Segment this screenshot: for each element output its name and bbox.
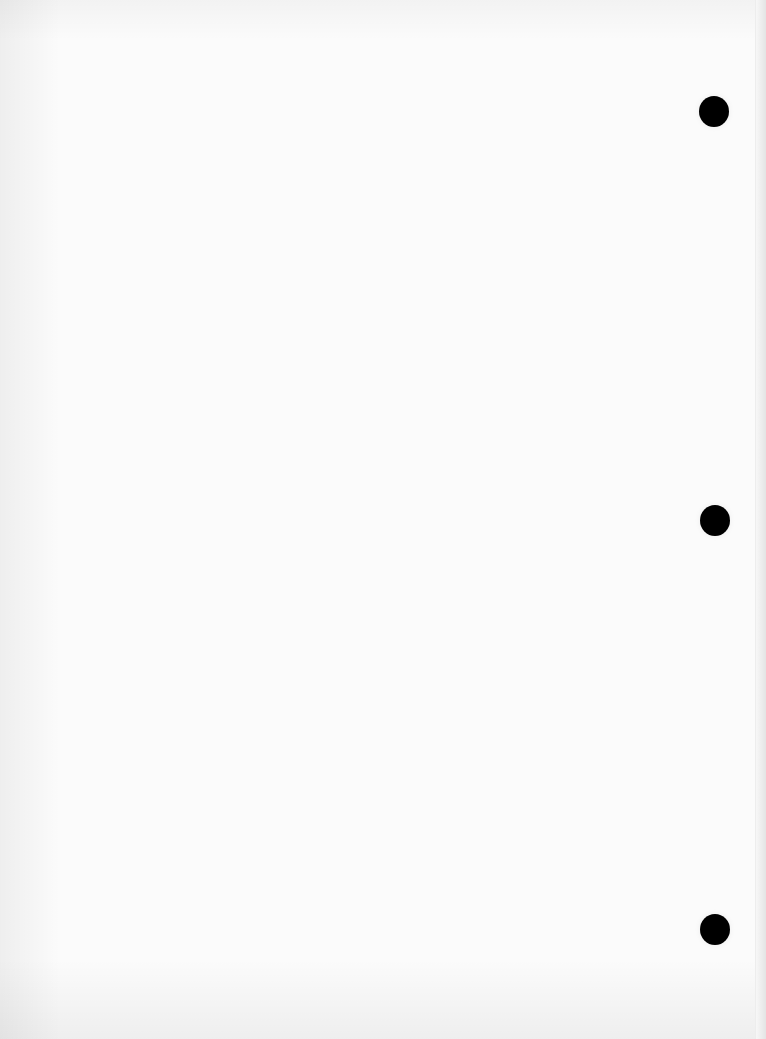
page-edge-shadow (755, 0, 766, 1039)
punch-hole-bottom (700, 914, 730, 945)
punch-hole-top (699, 96, 729, 127)
blank-page (0, 0, 766, 1039)
punch-hole-middle (700, 505, 730, 536)
